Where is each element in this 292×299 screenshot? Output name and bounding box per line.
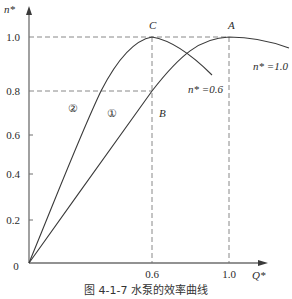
curve1-name: n* =1.0 <box>253 60 288 72</box>
x-axis-arrow-icon <box>258 260 268 266</box>
y-tick-label-0.8: 0.8 <box>6 85 20 97</box>
x-axis-label: Q* <box>252 269 266 281</box>
x-tick-label-1.0: 1.0 <box>222 268 236 280</box>
y-axis-arrow-icon <box>26 6 32 15</box>
curve1-marker: ① <box>107 107 117 119</box>
y-tick-label-0.6: 0.6 <box>6 129 20 141</box>
point-label-c: C <box>149 19 157 31</box>
y-tick-label-0.4: 0.4 <box>6 168 20 180</box>
curve-n1.0 <box>29 37 289 263</box>
y-tick-label-0.2: 0.2 <box>6 214 20 226</box>
y-tick-label-1.0: 1.0 <box>6 31 20 43</box>
point-label-b: B <box>159 107 166 119</box>
figure-caption: 图 4-1-7 水泵的效率曲线 <box>0 281 292 297</box>
curve2-name: n* =0.6 <box>188 83 223 95</box>
origin-label: 0 <box>13 260 19 272</box>
curve2-marker: ② <box>68 102 78 114</box>
point-label-a: A <box>227 19 235 31</box>
efficiency-chart: 1.0 0.8 0.6 0.4 0.2 0 0.6 1.0 n* Q* C A … <box>0 0 292 299</box>
x-tick-label-0.6: 0.6 <box>145 268 159 280</box>
curve-n0.6 <box>29 37 212 263</box>
y-axis-label: n* <box>4 3 16 15</box>
